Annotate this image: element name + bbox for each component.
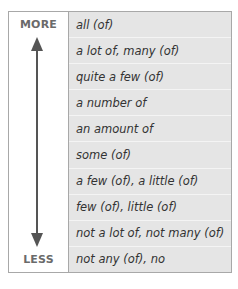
quantifier-row: not a lot of, not many (of) — [69, 221, 231, 247]
scale-column: MORE LESS — [9, 12, 69, 272]
quantifier-row: a number of — [69, 90, 231, 116]
quantifier-row: few (of), little (of) — [69, 195, 231, 221]
less-label: LESS — [9, 253, 68, 266]
quantifier-row: some (of) — [69, 142, 231, 168]
quantifier-row: a lot of, many (of) — [69, 38, 231, 64]
double-arrow-icon — [29, 37, 45, 247]
quantifier-row: an amount of — [69, 116, 231, 142]
quantifier-row: all (of) — [69, 12, 231, 38]
quantifier-row: not any (of), no — [69, 247, 231, 272]
quantifier-row: a few (of), a little (of) — [69, 169, 231, 195]
quantifier-list: all (of) a lot of, many (of) quite a few… — [69, 12, 231, 272]
quantifier-scale-table: MORE LESS all (of) a lot of, many (of) q… — [8, 11, 232, 273]
more-label: MORE — [9, 18, 68, 31]
quantifier-row: quite a few (of) — [69, 64, 231, 90]
